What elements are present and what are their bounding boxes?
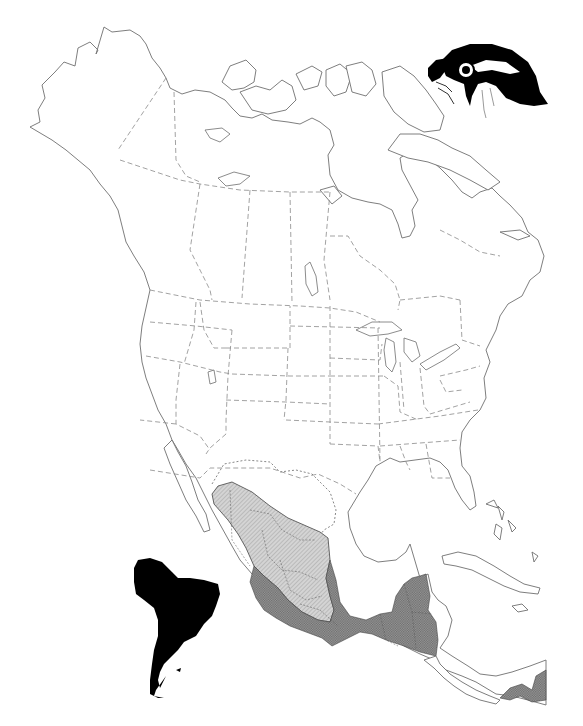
falcon-head-illustration: [428, 44, 548, 118]
bahamas-2: [498, 506, 504, 520]
bahamas-5: [532, 552, 538, 562]
bahamas-3: [494, 524, 502, 540]
south-america-range: [134, 558, 220, 698]
range-map: [0, 0, 583, 726]
bahamas-1: [486, 500, 498, 508]
falkland-islands: [176, 668, 181, 672]
jamaica: [512, 604, 528, 612]
bahamas-4: [508, 520, 516, 532]
caribbean-islands: [442, 500, 540, 612]
cuba: [442, 552, 540, 594]
